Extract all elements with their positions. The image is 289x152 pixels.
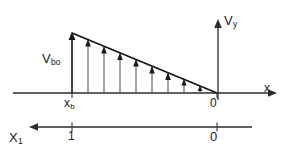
- boundary-tick-label: xb: [64, 97, 75, 111]
- lower-tick-zero-label: 0: [210, 130, 217, 143]
- vertical-axis-symbol: V: [224, 13, 233, 28]
- lower-tick-one-label: 1: [68, 130, 75, 142]
- x1-axis-arrowhead-icon: [29, 123, 38, 131]
- distribution-arrows-group: [85, 39, 202, 93]
- horizontal-axis-label: x: [264, 82, 270, 94]
- origin-tick-label: 0: [210, 97, 217, 109]
- velocity-triangle: [69, 32, 217, 94]
- distribution-arrow: [133, 59, 139, 93]
- velocity-distribution-figure: Vbo Vy x xb 0 X1 1 0: [0, 0, 289, 152]
- distribution-arrow: [149, 66, 155, 93]
- x-axis-group: [13, 89, 277, 97]
- distribution-arrow: [85, 39, 91, 93]
- vy-axis-arrowhead-icon: [214, 19, 222, 28]
- peak-velocity-symbol: V: [42, 51, 51, 66]
- peak-velocity-subscript: bo: [51, 57, 61, 67]
- distribution-arrow: [165, 73, 171, 94]
- x1-axis-group: [29, 123, 252, 132]
- distribution-arrow: [117, 53, 123, 94]
- lower-axis-symbol: X: [9, 130, 18, 145]
- distribution-arrow: [181, 79, 186, 93]
- lower-axis-subscript: 1: [18, 136, 23, 146]
- peak-velocity-label: Vbo: [42, 52, 60, 66]
- vertical-axis-subscript: y: [233, 19, 237, 29]
- vy-axis-group: [214, 19, 222, 100]
- figure-canvas: [0, 0, 289, 152]
- boundary-subscript: b: [70, 102, 74, 111]
- distribution-arrow: [101, 46, 107, 93]
- lower-axis-label: X1: [9, 131, 23, 145]
- vertical-axis-label: Vy: [224, 14, 237, 28]
- triangle-hypotenuse: [72, 33, 217, 93]
- apex-arrowhead-icon: [69, 32, 76, 41]
